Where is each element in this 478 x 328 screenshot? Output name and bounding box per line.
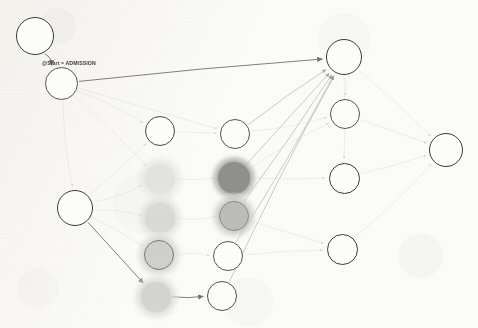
graph-node-wait3[interactable] xyxy=(145,203,175,233)
graph-canvas[interactable]: @Start = ADMISSION xyxy=(0,0,478,328)
graph-node-admission[interactable] xyxy=(45,67,78,100)
graph-node-at1[interactable] xyxy=(220,119,250,149)
graph-node-start[interactable] xyxy=(16,17,54,55)
graph-edge-wait3-to-at3 xyxy=(177,217,216,220)
graph-edge-at4-to-exitus xyxy=(245,250,324,255)
graph-edge-at2-to-home xyxy=(246,73,330,165)
graph-node-triage[interactable] xyxy=(57,190,93,226)
graph-node-at2[interactable] xyxy=(218,162,250,194)
graph-edge-triage-to-wait2 xyxy=(94,185,143,202)
graph-node-home[interactable] xyxy=(326,39,362,75)
graph-edge-at2-to-others xyxy=(252,178,326,179)
graph-edge-at3-to-exitus xyxy=(250,221,324,244)
graph-node-wait1[interactable] xyxy=(145,116,175,146)
graph-node-wait5[interactable] xyxy=(141,282,171,312)
graph-edge-home-to-end xyxy=(358,70,431,136)
graph-node-hosp[interactable] xyxy=(330,99,360,129)
graph-edge-admission-to-wait2 xyxy=(74,96,147,167)
graph-edge-at4-to-home xyxy=(236,76,333,242)
edge-label-start-admission: @Start = ADMISSION xyxy=(42,60,96,66)
graph-node-at3[interactable] xyxy=(219,201,249,231)
graph-node-wait2[interactable] xyxy=(145,164,175,194)
graph-node-at4[interactable] xyxy=(213,241,243,271)
graph-edge-at3-to-home xyxy=(243,75,331,203)
graph-edge-exitus-to-end xyxy=(354,164,431,237)
graph-node-end[interactable] xyxy=(429,133,463,167)
graph-edge-wait1-to-at1 xyxy=(177,132,217,134)
graph-edge-hosp-to-end xyxy=(361,120,427,144)
graph-edge-triage-to-wait3 xyxy=(94,210,141,216)
graph-edge-at1-to-hosp xyxy=(251,117,327,131)
graph-node-at5[interactable] xyxy=(207,281,237,311)
graph-edge-admission-to-triage xyxy=(63,101,73,187)
graph-edge-admission-to-wait1 xyxy=(77,91,143,123)
graph-edge-triage-to-wait5 xyxy=(88,222,143,283)
graph-node-wait4[interactable] xyxy=(144,240,174,270)
graph-node-others[interactable] xyxy=(329,163,360,194)
graph-node-exitus[interactable] xyxy=(327,234,358,265)
graph-edge-at1-to-home xyxy=(249,69,327,124)
graph-edge-wait4-to-at4 xyxy=(176,253,210,255)
graph-edge-wait2-to-at2 xyxy=(177,178,215,179)
graph-edge-admission-to-home xyxy=(79,59,323,81)
graph-edge-triage-to-wait4 xyxy=(92,218,143,247)
graph-edge-wait5-to-at5 xyxy=(173,296,204,297)
graph-edge-others-to-end xyxy=(360,155,426,173)
